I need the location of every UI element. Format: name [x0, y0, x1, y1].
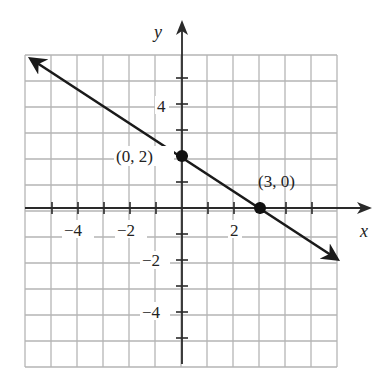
- coordinate-plane: (0, 2) (3, 0) y x −4 −2 2 4 −2 −4: [0, 0, 392, 381]
- x-tick-label-neg2: −2: [117, 221, 135, 240]
- grid: [25, 55, 337, 367]
- y-tick-label-4: 4: [157, 97, 166, 116]
- y-tick-label-neg4: −4: [142, 303, 161, 322]
- y-axis-label: y: [152, 22, 162, 42]
- x-axis-label: x: [359, 221, 368, 241]
- point-label-3-0: (3, 0): [258, 172, 295, 191]
- y-tick-label-neg2: −2: [142, 251, 160, 270]
- x-tick-label-2: 2: [230, 221, 239, 240]
- point-label-0-2: (0, 2): [116, 147, 153, 166]
- x-tick-label-neg4: −4: [64, 221, 83, 240]
- point-0-2: [176, 150, 188, 162]
